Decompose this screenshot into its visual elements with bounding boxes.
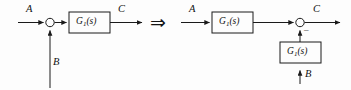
left-input-b-label: B bbox=[53, 57, 59, 68]
left-block-g1-argument: (s) bbox=[86, 16, 96, 26]
right-branch-block-g1-base: G bbox=[287, 46, 294, 56]
right-output-c-label: C bbox=[313, 4, 320, 15]
diagram-vector-layer bbox=[0, 0, 351, 90]
block-diagram-figure: A B C G1(s) ⇒ A C – G1(s) G1(s) B bbox=[0, 0, 351, 90]
right-junction-sign-label: – bbox=[304, 25, 309, 34]
right-branch-block-g1-label: G1(s) bbox=[287, 47, 307, 58]
right-branch-block-g1-argument: (s) bbox=[297, 46, 307, 56]
left-output-c-label: C bbox=[118, 4, 125, 15]
implies-symbol: ⇒ bbox=[150, 13, 166, 32]
right-input-a-label: A bbox=[189, 4, 195, 15]
left-input-a-label: A bbox=[26, 4, 32, 15]
right-input-b-label: B bbox=[305, 69, 311, 80]
left-summing-junction bbox=[46, 18, 54, 26]
right-summing-junction bbox=[296, 18, 304, 26]
right-forward-block-g1-argument: (s) bbox=[229, 16, 239, 26]
left-block-g1-label: G1(s) bbox=[76, 17, 96, 28]
right-forward-block-g1-base: G bbox=[219, 16, 226, 26]
left-block-g1-base: G bbox=[76, 16, 83, 26]
right-forward-block-g1-label: G1(s) bbox=[219, 17, 239, 28]
